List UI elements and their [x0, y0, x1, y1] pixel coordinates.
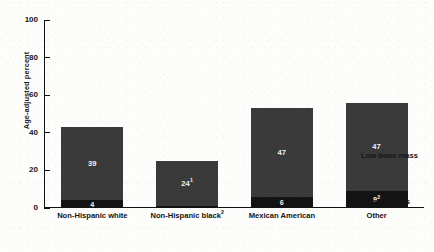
bar-value-label: 39 — [88, 160, 97, 168]
bar-value-label: 6 — [280, 199, 284, 206]
x-axis-category-label: Non-Hispanic white — [45, 212, 140, 220]
bar-value-label: 47 — [372, 143, 381, 151]
y-tick-label: 0 — [2, 204, 38, 212]
bar-segment-low-bone-mass[interactable]: 39 — [61, 127, 123, 200]
y-tick-label: 60 — [2, 91, 38, 99]
bar-value-label: 47 — [277, 149, 286, 157]
legend-item-osteoporosis: Osteoporosis — [361, 198, 410, 206]
x-axis-category-label: Non-Hispanic black2 — [140, 212, 235, 220]
bar-segment-low-bone-mass[interactable]: 47 — [251, 108, 313, 196]
plot-area: 4392416479247 — [45, 20, 424, 208]
bar-segment-osteoporosis[interactable] — [156, 206, 218, 208]
stacked-bar[interactable]: 647 — [251, 108, 313, 208]
bar-value-label: 241 — [181, 180, 193, 188]
y-tick-label: 80 — [2, 54, 38, 62]
bar-value-label: 4 — [90, 201, 94, 208]
bar-group[interactable]: 9247 — [346, 20, 408, 208]
bar-group[interactable]: 647 — [251, 20, 313, 208]
x-axis-category-label: Mexican American — [235, 212, 330, 220]
bar-group[interactable]: 241 — [156, 20, 218, 208]
y-tick-label: 40 — [2, 129, 38, 137]
stacked-bar[interactable]: 241 — [156, 161, 218, 208]
bar-segment-osteoporosis[interactable]: 4 — [61, 200, 123, 208]
bar-segment-osteoporosis[interactable]: 6 — [251, 197, 313, 208]
y-tick-label: 20 — [2, 166, 38, 174]
bar-segment-low-bone-mass[interactable]: 47 — [346, 103, 408, 191]
bar-chart: Age-adjusted percent 020406080100 439241… — [0, 0, 434, 252]
x-axis-category-label: Other — [329, 212, 424, 220]
y-tick-label: 100 — [2, 16, 38, 24]
stacked-bar[interactable]: 439 — [61, 127, 123, 208]
bar-segment-low-bone-mass[interactable]: 241 — [156, 161, 218, 206]
bar-group[interactable]: 439 — [61, 20, 123, 208]
legend-item-low-bone-mass: Low bone mass — [361, 152, 418, 160]
